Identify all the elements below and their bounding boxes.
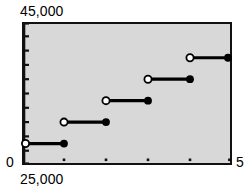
x-axis-tick-group — [63, 159, 231, 162]
y-axis-min-label: 25,000 — [20, 172, 63, 186]
x-axis-max-label: 5 — [236, 155, 244, 169]
plot-canvas — [22, 22, 232, 165]
filled-circle-marker — [144, 97, 152, 105]
x-axis-tick-dot — [63, 159, 66, 162]
x-axis-tick-dot — [189, 159, 192, 162]
x-axis-tick-dot — [147, 159, 150, 162]
x-axis-tick-dot — [228, 159, 231, 162]
x-axis-tick-dot — [105, 159, 108, 162]
step-function-chart: 45,000 0 25,000 5 — [0, 0, 251, 192]
y-axis-max-label: 45,000 — [20, 4, 63, 18]
filled-circle-marker — [186, 75, 194, 83]
open-circle-marker — [60, 119, 67, 126]
open-circle-marker — [144, 76, 151, 83]
filled-circle-marker — [60, 140, 68, 148]
open-circle-marker — [102, 97, 109, 104]
open-circle-marker — [22, 140, 29, 147]
step-series-group — [22, 54, 232, 148]
y-axis-origin-label: 0 — [6, 155, 14, 169]
open-circle-marker — [186, 54, 193, 61]
filled-circle-marker — [102, 118, 110, 126]
filled-circle-marker — [224, 54, 232, 62]
